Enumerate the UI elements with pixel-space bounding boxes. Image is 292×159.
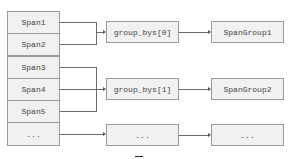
connector-span2 <box>60 44 96 45</box>
span-group-box-2: SpanGroup2 <box>211 78 284 100</box>
connector-bracket-0 <box>96 22 97 45</box>
arrow-icon <box>103 30 106 34</box>
span-label: Span1 <box>21 18 45 27</box>
span-label: ... <box>26 130 40 139</box>
arrow-icon <box>103 132 106 136</box>
span-label: Span5 <box>21 107 45 116</box>
span-group-label: SpanGroup1 <box>223 28 271 37</box>
group-bys-box-1: group_bys[1] <box>106 78 179 100</box>
span-group-label: SpanGroup2 <box>223 85 271 94</box>
connector-bracket-1 <box>96 67 97 112</box>
span-cell-more: ... <box>7 122 60 146</box>
group-bys-box-0: group_bys[0] <box>106 21 179 43</box>
span-cell-4: Span4 <box>7 78 60 101</box>
caption-fragment <box>135 156 143 157</box>
arrow-icon <box>208 133 211 137</box>
connector-more-to-more <box>179 135 208 136</box>
connector-span5 <box>60 111 96 112</box>
span-cell-5: Span5 <box>7 100 60 123</box>
connector-group-bys-1-to-spangroup2 <box>179 89 208 90</box>
span-cell-2: Span2 <box>7 33 60 56</box>
group-bys-label: group_bys[1] <box>114 85 172 94</box>
span-cell-1: Span1 <box>7 11 60 34</box>
connector-group-bys-0-to-spangroup1 <box>179 32 208 33</box>
span-label: Span3 <box>21 63 45 72</box>
group-bys-box-more: ... <box>106 124 179 146</box>
group-bys-label: group_bys[0] <box>114 28 172 37</box>
span-group-box-1: SpanGroup1 <box>211 21 284 43</box>
span-group-label: ... <box>240 131 254 140</box>
arrow-icon <box>208 87 211 91</box>
span-label: Span4 <box>21 85 45 94</box>
connector-span3 <box>60 67 96 68</box>
group-bys-label: ... <box>135 131 149 140</box>
connector-more <box>60 134 103 135</box>
span-label: Span2 <box>21 40 45 49</box>
arrow-icon <box>103 87 106 91</box>
connector-to-group-bys-0 <box>96 32 103 33</box>
arrow-icon <box>208 30 211 34</box>
span-cell-3: Span3 <box>7 56 60 79</box>
connector-span1 <box>60 22 96 23</box>
span-group-box-more: ... <box>211 124 284 146</box>
